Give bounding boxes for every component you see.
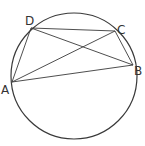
- segment-cd: [31, 28, 115, 31]
- point-label-a: A: [1, 83, 10, 97]
- point-label-d: D: [25, 14, 34, 28]
- cyclic-quadrilateral-figure: ABCD: [0, 0, 145, 146]
- point-labels-group: ABCD: [1, 14, 142, 97]
- chords-group: [12, 28, 133, 82]
- diagram-canvas: ABCD: [0, 0, 145, 146]
- point-label-c: C: [117, 23, 125, 37]
- point-label-b: B: [134, 64, 142, 78]
